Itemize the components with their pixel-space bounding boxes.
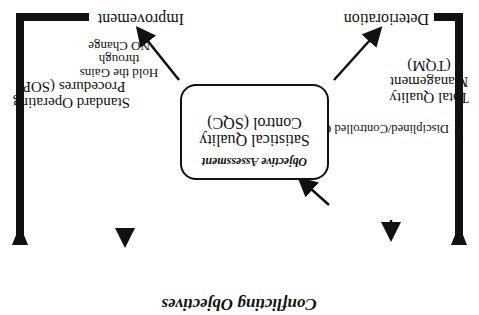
improvement-label: Improvement	[98, 10, 184, 27]
tqm-line3: (TQM)	[379, 58, 479, 74]
change-to-sqc-arrow	[301, 180, 329, 205]
objective-assessment-label: Objective Assessment	[182, 155, 327, 168]
tqm-line2: Management	[379, 74, 479, 90]
sqc-box: Satistical Quality Control (SQC) Objecti…	[180, 84, 329, 180]
sop-label: Standard Operating Procedures (SOP)	[0, 79, 144, 111]
tqm-down-arrowhead	[451, 225, 467, 245]
tqm-line1: Total Quality	[379, 89, 479, 105]
tqm-label: Total Quality Management (TQM)	[379, 58, 479, 105]
sqc-to-deterioration-arrow	[334, 30, 379, 80]
sqc-line1: Satistical Quality	[182, 131, 327, 148]
sqc-line2: Control (SQC)	[182, 114, 327, 131]
sop-down-arrowhead	[12, 225, 28, 245]
deterioration-label: Deterioration	[344, 10, 429, 27]
sop-line1: Standard Operating	[0, 94, 144, 110]
hold-line2: through	[69, 53, 169, 67]
sqc-title: Satistical Quality Control (SQC)	[182, 114, 327, 148]
hold-line1: Hold the Gains	[69, 66, 169, 80]
hold-gains-label: Hold the Gains through NO Change	[69, 39, 169, 80]
diagram-canvas: Conflicting Objectives Total Quality Man…	[0, 0, 479, 315]
hold-line3: NO Change	[69, 39, 169, 53]
